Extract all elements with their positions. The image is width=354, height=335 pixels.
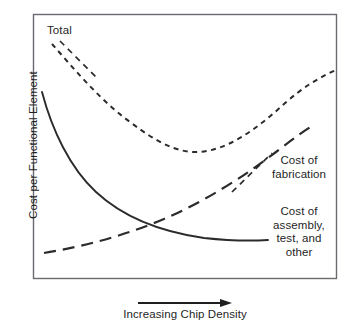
- series-label-assembly: Cost of assembly, test, and other: [257, 205, 341, 259]
- series-label-fabrication: Cost of fabrication: [259, 154, 339, 181]
- right-arrow-icon: [138, 299, 232, 307]
- series-assembly-curve: [42, 92, 268, 241]
- series-label-total: Total: [47, 24, 72, 38]
- x-axis-title: Increasing Chip Density: [33, 308, 337, 320]
- cost-vs-chip-density-figure: · · · · · Cost per Functio: [0, 0, 354, 335]
- y-axis-title: Cost per Functional Element: [27, 45, 39, 245]
- series-total-curve: [52, 44, 336, 152]
